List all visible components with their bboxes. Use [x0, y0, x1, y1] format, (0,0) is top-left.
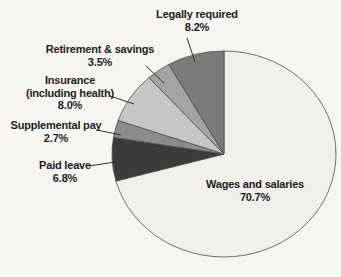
- slice-label-retirement-savings: Retirement & savings 3.5%: [30, 43, 170, 68]
- slice-label-text: Supplemental pay: [0, 119, 112, 132]
- slice-label-insurance: Insurance (including health) 8.0%: [8, 74, 132, 112]
- slice-label-pct: 2.7%: [0, 132, 112, 145]
- pie-chart-figure: Legally required 8.2% Retirement & savin…: [0, 0, 341, 277]
- slice-label-pct: 6.8%: [25, 172, 105, 185]
- slice-label-text2: (including health): [8, 87, 132, 100]
- slice-label-supplemental-pay: Supplemental pay 2.7%: [0, 119, 112, 144]
- slice-label-pct: 8.0%: [8, 99, 132, 112]
- slice-label-text: Retirement & savings: [30, 43, 170, 56]
- pie-slices-group: [112, 51, 336, 257]
- slice-label-pct: 8.2%: [137, 21, 257, 34]
- slice-label-text: Wages and salaries: [195, 178, 315, 191]
- slice-label-text: Paid leave: [25, 159, 105, 172]
- slice-label-text: Insurance: [8, 74, 132, 87]
- slice-label-pct: 70.7%: [195, 191, 315, 204]
- slice-label-pct: 3.5%: [30, 56, 170, 69]
- slice-label-legally-required: Legally required 8.2%: [137, 8, 257, 33]
- slice-label-wages-and-salaries: Wages and salaries 70.7%: [195, 178, 315, 203]
- slice-label-paid-leave: Paid leave 6.8%: [25, 159, 105, 184]
- slice-label-text: Legally required: [137, 8, 257, 21]
